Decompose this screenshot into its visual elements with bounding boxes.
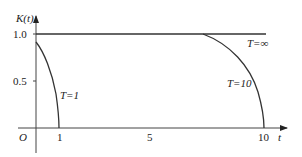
x-axis-label: t	[278, 131, 282, 143]
y-axis-label: K(t)	[15, 12, 34, 25]
y-tick-label-05: 0.5	[13, 75, 27, 87]
origin-label: O	[19, 131, 27, 143]
x-tick-label-1: 1	[57, 131, 63, 143]
series-label-t-10: T=10	[227, 77, 252, 89]
x-tick-label-5: 5	[147, 131, 153, 143]
reliability-chart: K(t) 1.0 0.5 O 1 5 10 t T=1 T=10 T=∞	[0, 0, 302, 157]
series-label-t-1: T=1	[60, 89, 79, 101]
series-label-t-infinity: T=∞	[247, 37, 269, 49]
y-tick-label-1: 1.0	[13, 28, 27, 40]
series-t-1	[36, 42, 59, 128]
x-tick-label-10: 10	[258, 131, 270, 143]
